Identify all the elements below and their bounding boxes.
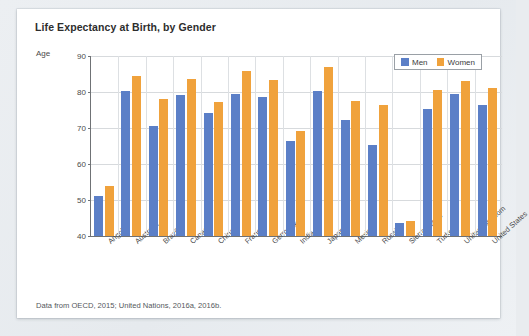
- legend-swatch-men: [401, 58, 409, 66]
- bar-men[interactable]: [258, 97, 267, 236]
- bar-men[interactable]: [368, 145, 377, 236]
- bar-women[interactable]: [461, 81, 470, 236]
- bar-women[interactable]: [433, 90, 442, 236]
- bar-men[interactable]: [286, 141, 295, 236]
- bar-group: Germany: [255, 56, 282, 236]
- bar-men[interactable]: [94, 196, 103, 236]
- legend-label-women: Women: [448, 58, 475, 67]
- y-axis-tick-label: 40: [77, 232, 86, 241]
- bar-women[interactable]: [159, 99, 168, 236]
- bar-group: Angola: [91, 56, 118, 236]
- bar-group: United Kingdom: [447, 56, 474, 236]
- y-axis-title: Age: [36, 49, 50, 58]
- chart-legend: Men Women: [394, 54, 482, 70]
- source-note: Data from OECD, 2015; United Nations, 20…: [36, 301, 221, 310]
- bar-men[interactable]: [149, 126, 158, 236]
- bar-women[interactable]: [379, 105, 388, 236]
- bar-men[interactable]: [313, 91, 322, 236]
- bar-men[interactable]: [450, 94, 459, 236]
- bar-group: Sierra Leone: [392, 56, 419, 236]
- bar-group: Canada: [173, 56, 200, 236]
- y-axis-tick-label: 50: [77, 196, 86, 205]
- bar-group: Russia: [365, 56, 392, 236]
- y-axis-tick: [88, 236, 91, 237]
- bar-group: Australia: [118, 56, 145, 236]
- bar-men[interactable]: [395, 223, 404, 236]
- bar-group: France: [228, 56, 255, 236]
- bar-men[interactable]: [478, 105, 487, 236]
- y-axis-tick-label: 80: [77, 88, 86, 97]
- chart-title: Life Expectancy at Birth, by Gender: [35, 21, 216, 33]
- bar-group: Mexico: [338, 56, 365, 236]
- y-axis-tick-label: 70: [77, 124, 86, 133]
- bar-group: Brazil: [146, 56, 173, 236]
- legend-item-men: Men: [401, 58, 428, 67]
- bar-women[interactable]: [214, 102, 223, 236]
- legend-swatch-women: [437, 58, 445, 66]
- bar-women[interactable]: [187, 79, 196, 236]
- bar-men[interactable]: [176, 95, 185, 236]
- legend-label-men: Men: [412, 58, 428, 67]
- bar-group: Japan: [310, 56, 337, 236]
- bar-men[interactable]: [231, 94, 240, 236]
- bar-women[interactable]: [132, 76, 141, 236]
- bar-women[interactable]: [488, 88, 497, 236]
- bar-women[interactable]: [269, 80, 278, 236]
- bar-group: India: [283, 56, 310, 236]
- y-axis-tick-label: 60: [77, 160, 86, 169]
- bar-men[interactable]: [423, 109, 432, 236]
- bar-women[interactable]: [105, 186, 114, 236]
- legend-item-women: Women: [437, 58, 475, 67]
- bar-group: Turkey: [420, 56, 447, 236]
- bar-group: United States: [475, 56, 502, 236]
- chart-card: Life Expectancy at Birth, by Gender Age …: [17, 9, 500, 318]
- bar-women[interactable]: [242, 71, 251, 236]
- bar-women[interactable]: [351, 101, 360, 236]
- bar-men[interactable]: [341, 120, 350, 236]
- y-axis-tick-label: 90: [77, 52, 86, 61]
- bar-men[interactable]: [204, 113, 213, 236]
- bar-women[interactable]: [324, 67, 333, 236]
- bar-men[interactable]: [121, 91, 130, 236]
- bar-group: China: [201, 56, 228, 236]
- plot-area: 405060708090AngolaAustraliaBrazilCanadaC…: [90, 56, 502, 237]
- bar-women[interactable]: [296, 131, 305, 236]
